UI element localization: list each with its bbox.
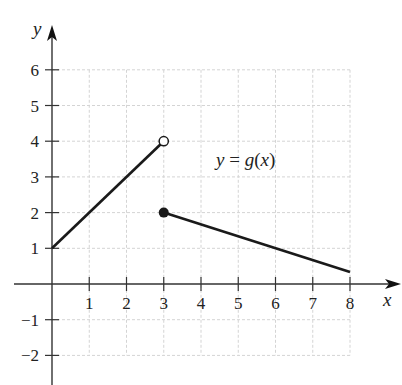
y-tick-label: 4 xyxy=(31,132,40,151)
y-tick-label: 3 xyxy=(31,168,40,187)
y-axis-label: y xyxy=(31,18,42,39)
closed-circle-icon xyxy=(159,208,169,218)
x-tick-label: 3 xyxy=(160,294,169,313)
x-axis-label: x xyxy=(382,289,392,310)
y-tick-label: 6 xyxy=(31,61,40,80)
open-circle-icon xyxy=(159,137,168,146)
x-tick-label: 1 xyxy=(85,294,94,313)
function-segment xyxy=(52,141,164,248)
y-tick-label: 2 xyxy=(31,204,40,223)
y-tick-label: −2 xyxy=(21,346,39,365)
x-tick-label: 6 xyxy=(271,294,280,313)
function-graph: 12345678−2−1123456 x y y = g(x) xyxy=(0,0,402,385)
function-label: y = g(x) xyxy=(214,149,275,171)
x-tick-label: 4 xyxy=(197,294,206,313)
y-tick-label: −1 xyxy=(21,311,39,330)
x-tick-label: 5 xyxy=(234,294,243,313)
axes xyxy=(14,25,401,385)
y-tick-label: 1 xyxy=(31,239,40,258)
function-segment xyxy=(164,213,350,273)
y-tick-label: 5 xyxy=(31,97,40,116)
x-tick-label: 7 xyxy=(309,294,318,313)
x-tick-label: 2 xyxy=(122,294,131,313)
x-tick-label: 8 xyxy=(346,294,355,313)
